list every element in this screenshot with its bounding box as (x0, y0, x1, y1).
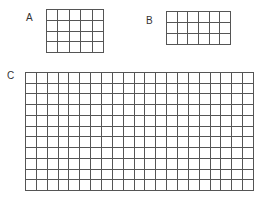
grid-cell (200, 148, 211, 159)
grid-cell (199, 12, 210, 23)
grid-cell (135, 94, 146, 105)
grid-cell (189, 148, 200, 159)
grid-cell (211, 159, 222, 170)
grid-cell (59, 159, 70, 170)
grid-cell (200, 137, 211, 148)
grid-cell (26, 73, 37, 84)
grid-cell (113, 170, 124, 181)
grid-cell (178, 73, 189, 84)
grid-cell (102, 127, 113, 138)
grid-cell (178, 116, 189, 127)
grid-cell (232, 84, 243, 95)
grid-cell (48, 105, 59, 116)
grid-cell (145, 84, 156, 95)
grid-cell (178, 148, 189, 159)
grid-cell (102, 159, 113, 170)
grid-cell (220, 12, 231, 23)
grid-cell (80, 84, 91, 95)
grid-cell (167, 23, 178, 34)
grid-cell (135, 170, 146, 181)
grid-cell (220, 23, 231, 34)
grid-cell (178, 127, 189, 138)
grid-cell (189, 180, 200, 191)
grid-cell (69, 137, 80, 148)
grid-cell (70, 21, 81, 32)
grid-cell (189, 127, 200, 138)
grid-cell (221, 84, 232, 95)
grid-cell (178, 23, 189, 34)
grid-cell (135, 73, 146, 84)
grid-cell (189, 105, 200, 116)
grid-cell (167, 170, 178, 181)
grid-cell (156, 170, 167, 181)
grid-cell (145, 170, 156, 181)
grid-cell (59, 127, 70, 138)
grid-cell (59, 105, 70, 116)
grid-cell (81, 42, 92, 53)
grid-cell (91, 148, 102, 159)
grid-cell (80, 137, 91, 148)
grid-cell (91, 73, 102, 84)
grid-cell (48, 73, 59, 84)
grid-cell (211, 137, 222, 148)
grid-cell (113, 180, 124, 191)
grid-cell (211, 94, 222, 105)
grid-cell (135, 105, 146, 116)
grid-cell (80, 73, 91, 84)
grid-cell (156, 127, 167, 138)
grid-cell (211, 84, 222, 95)
grid-cell (102, 116, 113, 127)
grid-cell (200, 127, 211, 138)
grid-cell (48, 170, 59, 181)
grid-cell (167, 137, 178, 148)
grid-cell (200, 180, 211, 191)
grid-cell (47, 42, 58, 53)
grid-cell (156, 159, 167, 170)
grid-cell (221, 137, 232, 148)
grid-cell (135, 84, 146, 95)
grid-cell (91, 94, 102, 105)
grid-cell (80, 180, 91, 191)
grid-cell (200, 73, 211, 84)
grid-cell (145, 116, 156, 127)
grid-cell (167, 148, 178, 159)
grid-cell (69, 170, 80, 181)
grid-cell (135, 180, 146, 191)
grid-cell (221, 127, 232, 138)
grid-cell (124, 170, 135, 181)
grid-cell (199, 34, 210, 45)
grid-cell (167, 34, 178, 45)
grid-cell (211, 116, 222, 127)
grid-cell (102, 170, 113, 181)
grid-cell (189, 94, 200, 105)
grid-cell (178, 170, 189, 181)
grid-cell (37, 116, 48, 127)
grid-cell (37, 94, 48, 105)
grid-cell (220, 34, 231, 45)
grid-cell (80, 148, 91, 159)
grid-cell (93, 32, 104, 43)
grid-cell (124, 94, 135, 105)
grid-cell (26, 170, 37, 181)
grid-cell (26, 137, 37, 148)
grid-cell (178, 84, 189, 95)
grid-cell (188, 34, 199, 45)
grid-cell (156, 116, 167, 127)
grid-cell (156, 180, 167, 191)
grid-cell (48, 127, 59, 138)
grid-cell (156, 84, 167, 95)
grid-cell (167, 105, 178, 116)
grid-cell (211, 105, 222, 116)
grid-cell (145, 180, 156, 191)
grid-cell (102, 148, 113, 159)
grid-cell (200, 159, 211, 170)
grid-cell (156, 105, 167, 116)
grid-cell (81, 32, 92, 43)
grid-cell (211, 148, 222, 159)
grid-cell (189, 116, 200, 127)
grid-cell (243, 137, 254, 148)
grid-cell (91, 159, 102, 170)
grid-cell (37, 105, 48, 116)
grid-cell (145, 159, 156, 170)
grid-cell (124, 180, 135, 191)
